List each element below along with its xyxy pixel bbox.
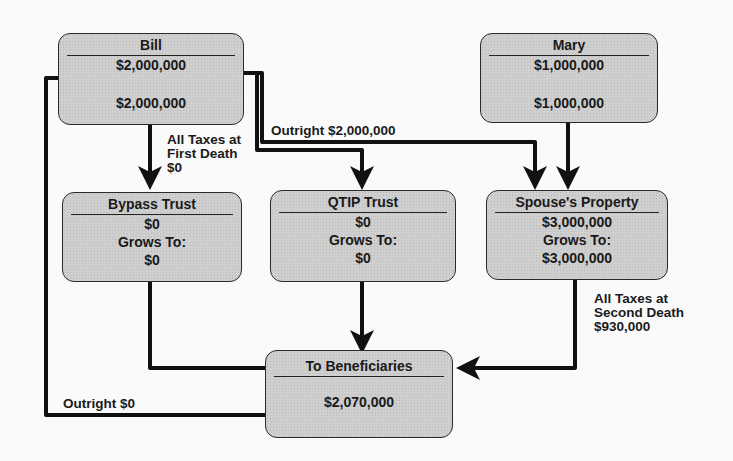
node-value: $3,000,000	[487, 213, 667, 231]
node-title: QTIP Trust	[271, 191, 455, 211]
grows-value: $3,000,000	[487, 249, 667, 267]
node-value: $2,000,000	[59, 56, 243, 74]
grows-value: $0	[271, 249, 455, 267]
node-value: $0	[271, 213, 455, 231]
node-value-final: $1,000,000	[481, 94, 657, 112]
node-title: Bill	[59, 34, 243, 54]
label-line: All Taxes at	[594, 292, 684, 306]
grows-label: Grows To:	[63, 233, 241, 251]
label-line: $930,000	[594, 320, 684, 334]
label-second-death-taxes: All Taxes at Second Death $930,000	[594, 292, 684, 334]
node-title: Mary	[481, 34, 657, 54]
node-spouses-property: Spouse's Property $3,000,000 Grows To: $…	[486, 190, 668, 280]
node-qtip-trust: QTIP Trust $0 Grows To: $0	[270, 190, 456, 282]
label-outright-zero: Outright $0	[63, 397, 135, 411]
node-title: Bypass Trust	[63, 193, 241, 213]
node-value: $1,000,000	[481, 56, 657, 74]
grows-value: $0	[63, 251, 241, 269]
label-outright-spouse: Outright $2,000,000	[271, 124, 396, 138]
label-first-death-taxes: All Taxes at First Death $0	[167, 133, 241, 175]
node-bypass-trust: Bypass Trust $0 Grows To: $0	[62, 192, 242, 282]
label-line: $0	[167, 161, 241, 175]
node-value-final: $2,000,000	[59, 94, 243, 112]
label-line: All Taxes at	[167, 133, 241, 147]
node-mary: Mary $1,000,000 $1,000,000	[480, 33, 658, 123]
node-value: $0	[63, 215, 241, 233]
node-value: $2,070,000	[266, 393, 452, 411]
node-to-beneficiaries: To Beneficiaries $2,070,000	[265, 350, 453, 438]
label-line: Second Death	[594, 306, 684, 320]
arrow-spouse-to-beneficiaries	[468, 280, 575, 368]
node-title: Spouse's Property	[487, 191, 667, 211]
grows-label: Grows To:	[487, 231, 667, 249]
line-bypass-to-beneficiaries	[150, 282, 265, 368]
node-title: To Beneficiaries	[266, 351, 452, 375]
grows-label: Grows To:	[271, 231, 455, 249]
divider	[274, 376, 444, 377]
node-bill: Bill $2,000,000 $2,000,000	[58, 33, 244, 125]
label-line: First Death	[167, 147, 241, 161]
